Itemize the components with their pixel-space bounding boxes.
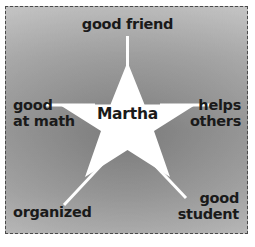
star-diagram-page: good friend good at math helps others or… xyxy=(0,0,255,247)
point-label-organized: organized xyxy=(13,205,92,221)
point-label-good-friend: good friend xyxy=(0,17,255,33)
point-label-good-student: good student xyxy=(178,191,239,222)
center-name: Martha xyxy=(0,107,255,123)
